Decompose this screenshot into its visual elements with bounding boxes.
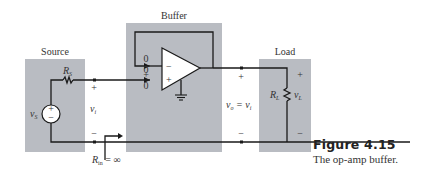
arrow-icon — [118, 133, 123, 139]
figure-caption: Figure 4.15 The op-amp buffer. — [313, 137, 398, 165]
output-voltage-label: vo = vi — [226, 99, 252, 111]
load-block — [259, 59, 311, 152]
input-plus: + — [91, 82, 97, 93]
diff-plus: + — [143, 69, 149, 80]
input-minus: − — [91, 128, 97, 139]
source-title: Source — [41, 46, 69, 57]
output-plus: + — [238, 71, 244, 82]
load-minus: − — [297, 128, 303, 139]
load-plus: + — [297, 69, 303, 80]
op-amp-inv-sign: − — [166, 61, 172, 72]
op-amp-noninv-sign: + — [166, 74, 172, 85]
noninv-current-label: 0 — [144, 80, 149, 91]
figure-caption-text: The op-amp buffer. — [313, 153, 398, 165]
output-minus: − — [238, 128, 244, 139]
source-minus: − — [48, 112, 54, 123]
input-voltage-label: vi — [90, 103, 96, 115]
figure-number: Figure 4.15 — [313, 137, 398, 152]
buffer-block — [126, 23, 222, 152]
load-title: Load — [275, 46, 296, 57]
buffer-title: Buffer — [161, 10, 188, 21]
rin-label: Rin = ∞ — [91, 154, 121, 166]
